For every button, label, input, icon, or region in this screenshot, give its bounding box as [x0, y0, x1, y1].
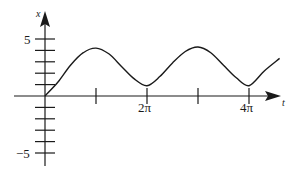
- x-tick-label-4pi: 4π: [240, 100, 254, 115]
- y-tick-label-5: 5: [24, 32, 31, 47]
- x-axis-label: t: [282, 97, 285, 108]
- x-tick-label-2pi: 2π: [138, 100, 152, 115]
- y-tick-label-neg5: −5: [16, 146, 30, 161]
- plot-area: x t 5 −5 2π 4π: [0, 0, 298, 176]
- data-curve: [45, 47, 280, 96]
- y-axis-label: x: [35, 8, 41, 19]
